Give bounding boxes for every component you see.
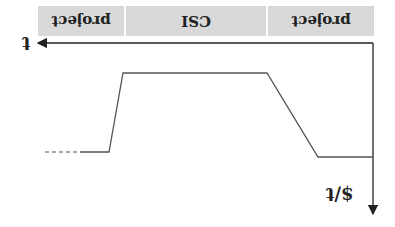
cost-curve — [80, 73, 373, 157]
cost-diagram: project CSI project t $/t — [0, 0, 395, 227]
time-axis-label: t — [22, 33, 30, 54]
cost-axis-label: $/t — [326, 184, 353, 205]
